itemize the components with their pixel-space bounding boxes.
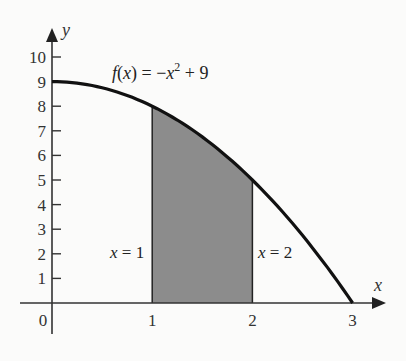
x-axis-arrow-icon xyxy=(372,297,386,309)
y-tick-label: 9 xyxy=(38,73,47,92)
x-tick-label: 2 xyxy=(248,311,257,330)
y-tick-label: 8 xyxy=(38,97,47,116)
y-tick-label: 5 xyxy=(38,171,47,190)
x-tick-label: 1 xyxy=(148,311,157,330)
y-tick-label: 7 xyxy=(38,122,47,141)
y-tick-label: 3 xyxy=(38,220,47,239)
y-axis-label: y xyxy=(60,20,70,40)
function-label: f(x) = −x2 + 9 xyxy=(112,60,208,84)
annotation-x-equals-1: x = 1 xyxy=(109,243,144,262)
y-tick-label: 10 xyxy=(29,48,46,67)
y-tick-label: 6 xyxy=(38,146,47,165)
x-ticks: 0123 xyxy=(39,311,357,330)
x-axis-label: x xyxy=(373,275,382,295)
y-tick-label: 2 xyxy=(38,245,47,264)
x-tick-label: 3 xyxy=(348,311,357,330)
annotation-x-equals-2: x = 2 xyxy=(257,243,292,262)
x-tick-label: 0 xyxy=(39,311,48,330)
chart: 12345678910 0123 y x f(x) = −x2 + 9 x = … xyxy=(0,0,406,361)
y-ticks: 12345678910 xyxy=(29,48,61,288)
y-axis-arrow-icon xyxy=(46,28,58,42)
y-tick-label: 1 xyxy=(38,269,47,288)
y-tick-label: 4 xyxy=(38,196,47,215)
